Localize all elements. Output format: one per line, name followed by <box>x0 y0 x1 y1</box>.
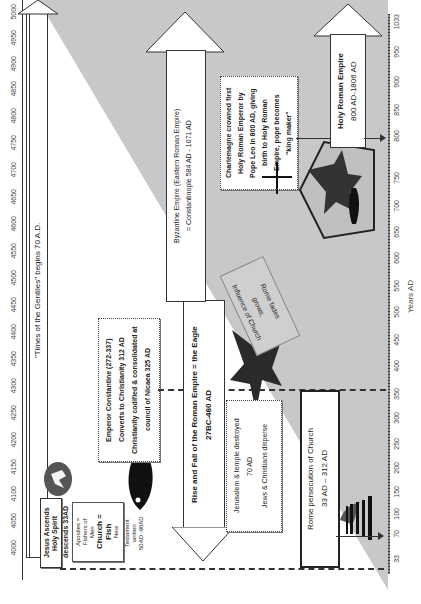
bottom-axis-line <box>388 14 390 574</box>
bottom-axis-tick: 200 <box>393 462 400 474</box>
dashed-line-33 <box>60 568 384 570</box>
bottom-axis-tick: 100 <box>393 508 400 520</box>
church-line: Fish <box>104 507 113 557</box>
jerusalem-line: Jews & Christians disperse <box>261 405 269 527</box>
cross-icon <box>262 160 292 194</box>
top-axis-tick: 4950 <box>10 30 17 46</box>
bottom-axis-tick: 550 <box>393 280 400 292</box>
charlemagne-line: Charlemagne crowned first <box>225 81 233 185</box>
byzantine-arrow-head <box>144 10 226 54</box>
holy-roman-title: Holy Roman Empire <box>336 41 345 141</box>
jerusalem-box: Jerusalem & temple destroyed 70 AD Jews … <box>226 400 282 532</box>
top-axis-tick: 4650 <box>10 189 17 205</box>
bottom-axis-tick: 600 <box>393 252 400 264</box>
jerusalem-line: 70 AD <box>246 405 254 527</box>
bottom-axis-tick: 900 <box>393 76 400 88</box>
top-axis-tick: 4600 <box>10 216 17 232</box>
church-line: Church = <box>95 507 104 557</box>
church-line: written <box>131 508 138 558</box>
bottom-axis-tick: 800 <box>393 130 400 142</box>
bottom-axis-tick: 150 <box>393 486 400 498</box>
bottom-axis-tick: 850 <box>393 104 400 116</box>
byzantine-title: Byzantine Empire (Eastern Roman Empire) <box>173 71 181 281</box>
top-axis-tick: 4050 <box>10 513 17 529</box>
holy-roman-dates: 800 AD-1806 AD <box>349 41 358 141</box>
persecution-line: Rome persecution of Church <box>306 396 315 562</box>
top-axis: 4000 4050 4100 4150 4200 4250 4300 4350 … <box>0 0 28 604</box>
charlemagne-line: Pope Leo in 800 AD, giving <box>249 81 257 185</box>
top-axis-tick: 4450 <box>10 297 17 313</box>
byzantine-dates: = Constantinople 584 AD - 1071 AD <box>185 71 193 281</box>
bottom-axis-tick: 33 <box>393 555 400 563</box>
arrow-70-line <box>336 536 382 537</box>
constantine-line: Christianity codified & consolidated at <box>131 323 139 457</box>
top-axis-tick: 4700 <box>10 162 17 178</box>
church-box: Apostles = Fishers of Men Church = Fish … <box>72 502 124 562</box>
bottom-axis-tick: 400 <box>393 360 400 372</box>
jerusalem-line: Jerusalem & temple destroyed <box>233 405 241 527</box>
holy-roman-arrow-head <box>312 2 384 38</box>
bottom-axis-tick: 350 <box>393 388 400 400</box>
persecution-box: Rome persecution of Church 33 AD – 312 A… <box>300 390 340 568</box>
top-axis-tick: 4850 <box>10 81 17 97</box>
top-axis-tick: 4400 <box>10 324 17 340</box>
church-line: 50AD -90AD <box>138 508 145 558</box>
byzantine-arrow: Byzantine Empire (Eastern Roman Empire) … <box>166 50 206 302</box>
top-axis-tick: 4350 <box>10 351 17 367</box>
bottom-axis-tick: 650 <box>393 226 400 238</box>
church-line: Testament <box>124 508 131 558</box>
constantine-line: Emperor Constantine (272-337) <box>105 323 113 457</box>
shield-emblem-icon <box>298 140 378 240</box>
church-line: Fishers of <box>82 507 89 557</box>
top-axis-tick: 4800 <box>10 108 17 124</box>
jesus-box-line1: Jesus Ascends <box>43 501 51 565</box>
holy-roman-arrow: Holy Roman Empire 800 AD-1806 AD <box>330 34 366 148</box>
bottom-axis-tick: 500 <box>393 306 400 318</box>
bottom-axis-tick: 300 <box>393 412 400 424</box>
connector-line-800 <box>296 138 330 139</box>
top-axis-tick: 4500 <box>10 270 17 286</box>
constantine-line: council of Nicaea 325 AD <box>144 323 152 457</box>
church-line: New <box>113 507 120 557</box>
top-axis-tick: 4150 <box>10 459 17 475</box>
bottom-axis: 33 70 100 150 200 250 300 350 400 450 50… <box>386 0 421 604</box>
bottom-axis-tick: 750 <box>393 172 400 184</box>
top-axis-tick: 4200 <box>10 432 17 448</box>
church-line: Apostles = <box>75 507 82 557</box>
top-axis-tick: 4550 <box>10 243 17 259</box>
top-axis-tick: 4900 <box>10 56 17 72</box>
dove-icon <box>44 462 72 496</box>
top-axis-tick: 4250 <box>10 405 17 421</box>
bottom-axis-tick: 950 <box>393 46 400 58</box>
temple-icon <box>338 490 374 546</box>
bottom-axis-label: Years AD <box>406 280 415 313</box>
top-axis-line <box>22 0 23 580</box>
roman-empire-arrow-head <box>170 527 236 563</box>
bottom-axis-tick: 70 <box>393 530 400 538</box>
constantine-box: Emperor Constantine (272-337) Converts t… <box>98 318 160 462</box>
persecution-line: 33 AD – 312 AD <box>320 396 329 562</box>
top-axis-tick: 4750 <box>10 135 17 151</box>
bottom-axis-tick: 1033 <box>393 14 400 30</box>
top-axis-tick: 4100 <box>10 486 17 502</box>
roman-empire-arrow: Rise and Fall of the Roman Empire = the … <box>183 300 225 530</box>
jesus-box-line3: descends 33AD <box>62 500 70 564</box>
jesus-box: Jesus Ascends Holy Spirit <box>40 498 62 568</box>
charlemagne-line: Holy Roman Emperor by <box>237 81 245 185</box>
roman-empire-dates: 27BC-480 AD <box>204 307 213 523</box>
top-axis-tick: 4000 <box>10 540 17 556</box>
roman-empire-title: Rise and Fall of the Roman Empire = the … <box>190 307 199 523</box>
jesus-box-line2: Holy Spirit <box>51 501 59 565</box>
gentiles-arrow-head <box>16 0 60 16</box>
bottom-axis-tick: 250 <box>393 438 400 450</box>
bottom-axis-tick: 700 <box>393 200 400 212</box>
top-axis-tick: 4300 <box>10 378 17 394</box>
bottom-axis-tick: 450 <box>393 334 400 346</box>
constantine-line: Converts to Christianity 312 AD <box>118 323 126 457</box>
gentiles-text: "Times of the Gentiles" begins 70 A.D. <box>33 180 42 400</box>
arrow-70-head <box>378 532 384 540</box>
